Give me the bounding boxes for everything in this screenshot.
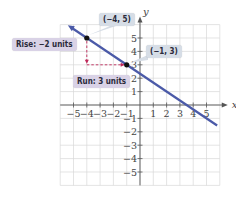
- svg-text:4: 4: [131, 46, 137, 57]
- svg-text:−3: −3: [123, 140, 137, 151]
- svg-text:−5: −5: [66, 108, 80, 119]
- point-b-label: (−1, 3): [146, 45, 182, 58]
- svg-text:−2: −2: [123, 126, 137, 137]
- svg-text:3: 3: [177, 108, 183, 119]
- svg-text:1: 1: [131, 86, 137, 97]
- svg-text:1: 1: [150, 108, 156, 119]
- point-a-label: (−4, 5): [99, 13, 135, 26]
- svg-text:−2: −2: [106, 108, 120, 119]
- svg-text:−4: −4: [80, 108, 94, 119]
- annotations: [84, 26, 148, 67]
- svg-text:y: y: [142, 6, 149, 17]
- svg-text:−1: −1: [123, 113, 137, 124]
- svg-text:5: 5: [131, 33, 137, 44]
- svg-text:x: x: [232, 99, 236, 110]
- rise-label: Rise: −2 units: [12, 38, 77, 51]
- svg-text:2: 2: [164, 108, 170, 119]
- svg-text:2: 2: [131, 73, 137, 84]
- coordinate-plane: xy −5−4−3−2−112345−5−4−3−2−112345: [0, 0, 236, 198]
- svg-text:−3: −3: [93, 108, 107, 119]
- svg-text:−5: −5: [123, 167, 137, 178]
- run-label: Run: 3 units: [73, 75, 130, 88]
- svg-text:−4: −4: [123, 153, 137, 164]
